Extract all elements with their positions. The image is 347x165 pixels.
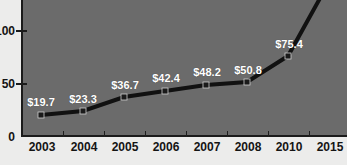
data-label-2008: $50.8 <box>234 64 262 76</box>
data-marker-2004 <box>80 108 86 114</box>
data-label-2006: $42.4 <box>152 72 180 84</box>
x-axis-label-2005: 2005 <box>112 140 139 154</box>
x-axis-label-2007: 2007 <box>194 140 221 154</box>
data-marker-2010 <box>285 53 291 59</box>
data-marker-2008 <box>244 79 250 85</box>
data-label-2007: $48.2 <box>193 66 221 78</box>
x-axis-label-2015: 2015 <box>317 140 344 154</box>
data-marker-2003 <box>38 112 44 118</box>
x-axis-label-2003: 2003 <box>29 140 56 154</box>
data-marker-2007 <box>203 82 209 88</box>
x-axis-label-2004: 2004 <box>71 140 98 154</box>
x-axis-label-2010: 2010 <box>276 140 303 154</box>
x-axis-label-2008: 2008 <box>235 140 262 154</box>
data-label-2004: $23.3 <box>69 93 97 105</box>
data-marker-2006 <box>162 88 168 94</box>
data-label-2010: $75.4 <box>275 38 303 50</box>
data-label-2003: $19.7 <box>27 96 55 108</box>
data-marker-2005 <box>121 94 127 100</box>
data-label-2005: $36.7 <box>111 79 139 91</box>
chart-screenshot: 100 50 0 $19.7 $23.3 $36.7 $42.4 $48.2 $… <box>0 0 347 165</box>
x-axis-label-2006: 2006 <box>153 140 180 154</box>
